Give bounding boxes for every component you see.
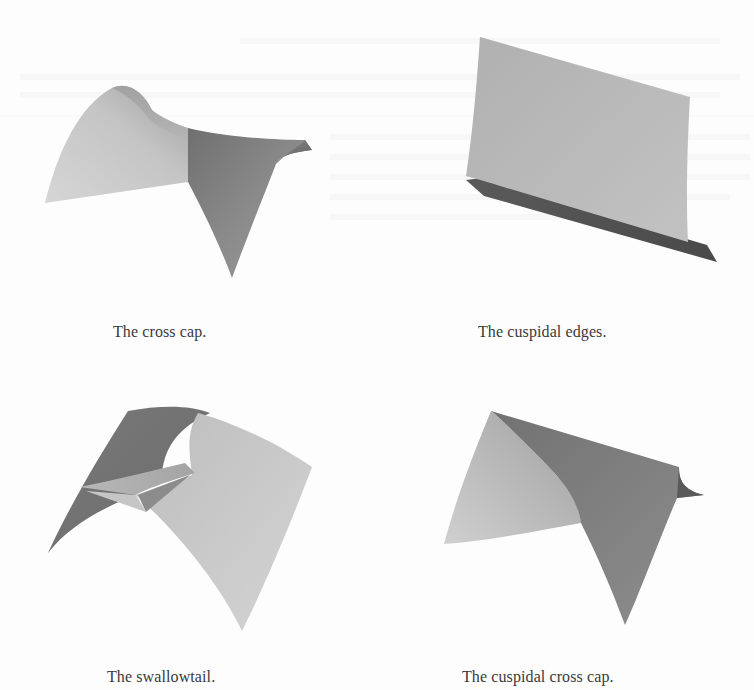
swallowtail-surface [0,345,377,690]
figure-swallowtail: The swallowtail. [0,345,377,690]
caption-cuspidal-edges: The cuspidal edges. [478,323,607,341]
figure-cuspidal-cross-cap: The cuspidal cross cap. [377,345,754,690]
figure-cuspidal-edges: The cuspidal edges. [377,0,754,345]
cuspidal-edges-surface [377,0,754,345]
caption-cuspidal-cross-cap: The cuspidal cross cap. [462,668,614,686]
figure-cross-cap: The cross cap. [0,0,377,345]
caption-swallowtail: The swallowtail. [107,668,215,686]
cuspidal-cross-cap-surface [377,345,754,690]
cross-cap-surface [0,0,377,345]
document-page: The cross cap. The cuspidal edges. [0,0,754,690]
caption-cross-cap: The cross cap. [113,323,206,341]
